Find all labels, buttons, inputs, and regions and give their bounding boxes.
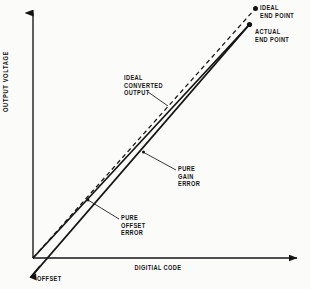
actual-end-point-label: ACTUAL END POINT [255,28,289,43]
ideal-converted-output-label: IDEAL CONVERTED OUTPUT [124,74,163,97]
axis-group [33,13,297,258]
pure-offset-error-leader-dot [87,199,90,202]
pure-offset-error-label: PURE OFFSET ERROR [121,214,146,237]
offset-error-line-solid [31,25,249,277]
leader-lines-group [87,92,176,219]
actual-end-point-dot [247,22,252,27]
pure-offset-error-leader [88,200,119,219]
offset-label: OFFSET [37,275,62,283]
ideal-end-point-dot [253,6,258,11]
x-axis-title: DIGITIAL CODE [135,264,182,272]
pure-gain-error-label: PURE GAIN ERROR [178,165,200,188]
pure-offset-error-line [31,22,253,278]
pure-gain-error-leader-dot [142,151,145,154]
ideal-end-point-label: IDEAL END POINT [260,4,294,19]
y-axis-title: OUTPUT VOLTAGE [2,51,9,112]
diagram-page: OUTPUT VOLTAGE DIGITIAL CODE OFFSET IDEA… [0,0,310,289]
converter-error-diagram [0,0,310,289]
pure-gain-error-leader [143,152,176,170]
